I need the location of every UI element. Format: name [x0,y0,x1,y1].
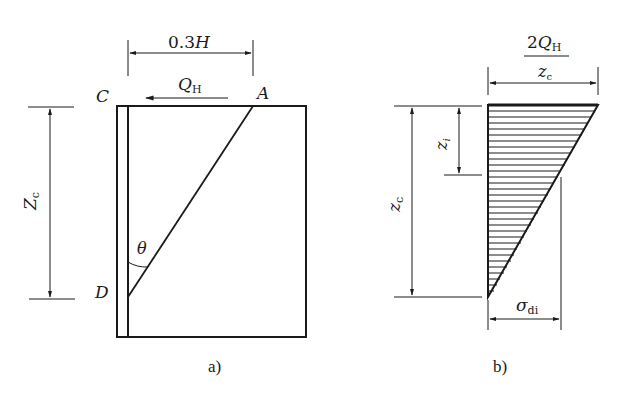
figure-b: 2QH zc zc zi σdi b) [384,32,598,376]
diagram-canvas: 0.3H QH C A D θ Zc a) [0,0,621,402]
point-label-c: C [96,86,109,106]
dim-label-zc: zc [384,197,406,213]
point-label-a: A [255,83,269,103]
fraction-numerator: 2QH [527,32,561,54]
caption-a: a) [208,357,221,376]
dim-label-Zc: Zc [20,192,42,211]
slip-line [128,106,253,297]
caption-b: b) [493,357,507,376]
fraction-denominator: zc [537,62,552,82]
point-label-d: D [94,282,109,302]
force-label-QH: QH [178,74,202,96]
dim-label-zi: zi [432,138,452,151]
dim-label-0.3H: 0.3H [168,32,211,52]
angle-arc [128,262,148,267]
wall-box [117,106,306,337]
figure-a: 0.3H QH C A D θ Zc a) [20,32,306,376]
dimension-zc [394,106,482,297]
angle-label-theta: θ [137,239,147,258]
dim-label-sigma-di: σdi [516,295,539,317]
